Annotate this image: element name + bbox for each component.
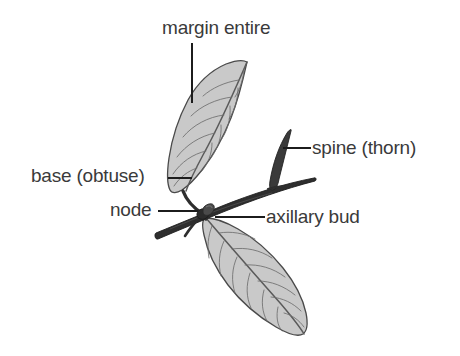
spine (268, 130, 291, 191)
label-base-obtuse: base (obtuse) (31, 166, 145, 186)
label-spine-thorn: spine (thorn) (312, 138, 416, 158)
label-node: node (110, 200, 151, 220)
diagram-canvas: margin entire spine (thorn) base (obtuse… (0, 0, 460, 356)
upper-leaf (168, 61, 247, 193)
label-margin-entire: margin entire (162, 18, 270, 38)
lower-leaf (203, 218, 307, 335)
spine-shape (270, 130, 292, 191)
label-axillary-bud: axillary bud (266, 207, 360, 227)
